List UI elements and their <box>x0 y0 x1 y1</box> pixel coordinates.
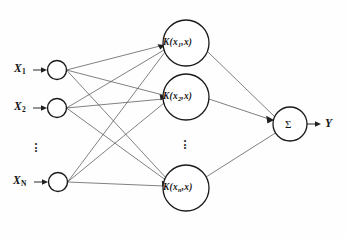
edge-in3-k1 <box>68 52 166 182</box>
input-arrowhead-2 <box>41 105 47 111</box>
output-arrow-group <box>307 121 321 127</box>
kernel-label-3: K(xn,x) <box>163 182 193 193</box>
kernel-label-2: K(x2,x) <box>163 91 192 102</box>
edge-in1-k3 <box>67 70 168 179</box>
input-node-2[interactable] <box>48 99 67 118</box>
edge-in1-k1 <box>67 46 161 70</box>
kernel-network-diagram: X1 X2 XN ... K(x1,x) K(x2,x) K(xn,x) ...… <box>0 0 346 239</box>
kernel-label-1: K(x1,x) <box>163 37 192 48</box>
edge-k3-sum <box>206 132 277 177</box>
kernel-ellipsis: ... <box>180 137 190 148</box>
edge-in2-k2 <box>67 99 164 108</box>
input-arrowhead-1 <box>41 67 47 73</box>
input-node-1[interactable] <box>48 61 67 80</box>
edge-k1-sum <box>208 52 275 117</box>
input-arrow-group <box>33 67 48 185</box>
input-ellipsis: ... <box>31 140 41 151</box>
edge-in3-k2 <box>68 103 165 182</box>
summation-symbol: Σ <box>285 118 292 130</box>
diagram-canvas <box>0 0 346 239</box>
input-arrowhead-3 <box>42 179 48 185</box>
edge-in3-k3 <box>68 182 165 186</box>
output-arrowhead <box>315 121 321 127</box>
input-label-2: X2 <box>14 100 26 114</box>
input-label-1: X1 <box>14 62 26 76</box>
edge-k2-sum <box>209 99 275 121</box>
input-node-3[interactable] <box>49 173 68 192</box>
edge-in2-k1 <box>67 50 165 108</box>
input-label-3: XN <box>13 174 26 188</box>
output-label: Y <box>325 117 332 129</box>
kernel-to-output-edges <box>206 52 277 177</box>
input-to-kernel-edges <box>67 44 170 187</box>
